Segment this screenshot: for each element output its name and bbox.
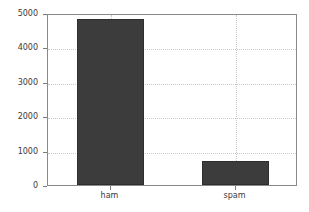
- y-tick-label-0: 0: [4, 182, 38, 190]
- y-tick-label-3000: 3000: [4, 79, 38, 87]
- y-tick-label-2000: 2000: [4, 113, 38, 121]
- x-tick-label-spam: spam: [195, 191, 275, 201]
- bar-ham: [77, 19, 144, 185]
- x-tick-mark-spam: [235, 186, 236, 190]
- bar-chart-figure: 010002000300040005000 hamspam: [0, 0, 309, 212]
- bar-spam: [202, 161, 269, 185]
- y-tick-label-4000: 4000: [4, 44, 38, 52]
- x-tick-mark-ham: [110, 186, 111, 190]
- gridline-x-spam: [236, 15, 237, 185]
- plot-area: [47, 14, 297, 186]
- y-tick-label-5000: 5000: [4, 10, 38, 18]
- x-tick-label-ham: ham: [70, 191, 150, 201]
- y-tick-mark-0: [43, 186, 47, 187]
- y-tick-label-1000: 1000: [4, 148, 38, 156]
